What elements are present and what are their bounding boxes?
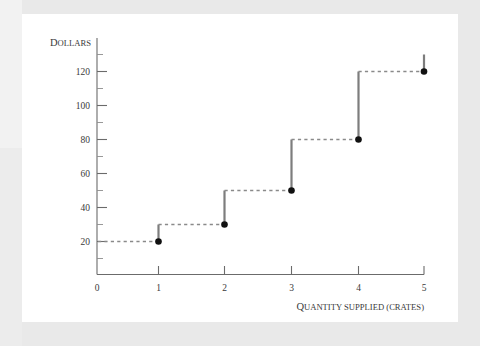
x-tick-label-1: 1 — [156, 283, 161, 293]
y-axis-title: DOLLARS — [50, 37, 91, 48]
data-point-q4 — [355, 136, 362, 143]
x-tick-label-2: 2 — [222, 283, 227, 293]
x-tick-label-4: 4 — [356, 283, 361, 293]
data-point-q1 — [155, 238, 162, 245]
left-margin-notch — [0, 0, 22, 148]
screenshot-root: 120 100 80 60 40 20 0 1 2 3 4 5 DOL — [0, 0, 480, 346]
y-axis-title-rest: OLLARS — [58, 38, 92, 48]
x-tick-label-0: 0 — [95, 283, 100, 293]
x-tick-label-3: 3 — [289, 283, 294, 293]
left-margin-band — [0, 148, 22, 346]
chart-svg: 120 100 80 60 40 20 0 1 2 3 4 5 DOL — [22, 14, 458, 322]
y-tick-label-20: 20 — [81, 237, 91, 247]
y-tick-label-100: 100 — [76, 101, 91, 111]
x-tick-labels: 0 1 2 3 4 5 — [95, 283, 427, 293]
step-chart: 120 100 80 60 40 20 0 1 2 3 4 5 DOL — [22, 14, 458, 322]
y-tick-label-40: 40 — [81, 203, 91, 213]
data-point-q3 — [288, 187, 295, 194]
data-point-q5 — [421, 68, 428, 75]
x-axis-title-rest: UANTITY SUPPLIED (CRATES) — [304, 302, 424, 312]
y-tick-label-60: 60 — [81, 169, 91, 179]
x-tick-label-5: 5 — [422, 283, 427, 293]
x-ticks — [159, 266, 425, 275]
figure-panel: 120 100 80 60 40 20 0 1 2 3 4 5 DOL — [22, 14, 458, 322]
y-tick-label-80: 80 — [81, 135, 91, 145]
y-tick-labels: 120 100 80 60 40 20 — [76, 67, 91, 247]
x-axis-title: QUANTITY SUPPLIED (CRATES) — [296, 301, 424, 312]
y-minor-ticks — [97, 55, 103, 259]
y-tick-label-120: 120 — [76, 67, 91, 77]
data-point-q2 — [221, 221, 228, 228]
